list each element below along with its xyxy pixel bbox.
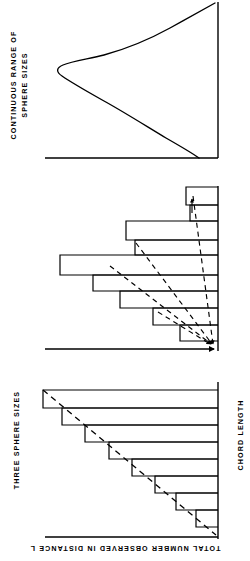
distribution-curve [58, 3, 215, 158]
dashed-arrow [136, 243, 212, 344]
histogram-bars [43, 390, 218, 527]
histogram-bars [60, 187, 218, 341]
dashed-arrow [110, 266, 211, 344]
bar-row [93, 275, 218, 291]
panel-top-y-label-line1: CONTINUOUS RANGE OF [9, 10, 20, 160]
bar-row [126, 221, 218, 240]
dashed-arrows [110, 196, 213, 344]
bar-row [180, 325, 218, 341]
single-sphere-size-chart [0, 365, 250, 561]
table-row [85, 425, 218, 442]
dashed-envelope-line [43, 390, 216, 535]
figure-root: CONTINUOUS RANGE OF SPHERE SIZES [0, 0, 250, 561]
bar-row [153, 308, 218, 325]
table-row [132, 459, 218, 476]
continuous-range-chart [0, 0, 250, 180]
table-row [155, 476, 218, 493]
panel-top-y-label-line2: SPHERE SIZES [20, 10, 31, 160]
bar-row [186, 187, 218, 205]
panel-continuous-range: CONTINUOUS RANGE OF SPHERE SIZES [0, 0, 250, 180]
three-sphere-sizes-chart [0, 180, 250, 365]
panel-three-sphere-sizes: THREE SPHERE SIZES CHORD LENGTH [0, 180, 250, 365]
table-row [196, 510, 218, 527]
table-row [43, 390, 218, 408]
bar-row [120, 291, 218, 308]
panel-single-sphere-size: SINGLE SPHERE SIZE [0, 365, 250, 561]
bar-row [60, 255, 218, 275]
panel-bottom-x-label: TOTAL NUMBER OBSERVED IN DISTANCE L [8, 542, 242, 553]
table-row [109, 442, 218, 459]
bar-row [135, 240, 218, 255]
panel-top-y-label: CONTINUOUS RANGE OF SPHERE SIZES [9, 10, 30, 160]
table-row [62, 408, 218, 425]
dashed-arrow [158, 312, 210, 344]
